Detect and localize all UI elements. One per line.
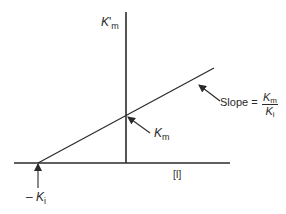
y-intercept-label: Km [154,127,170,139]
slope-fraction: Km Ki [262,92,278,117]
y-intercept-arrow [128,117,150,133]
km-apparent-vs-inhibitor-plot: K'm Slope = Km Ki Km [I] – Ki [0,0,286,214]
x-intercept-label: – Ki [26,191,46,203]
slope-arrow [199,85,220,101]
x-axis-label: [I] [173,170,181,180]
y-axis-label: K'm [101,16,119,28]
slope-label: Slope = [220,97,258,108]
